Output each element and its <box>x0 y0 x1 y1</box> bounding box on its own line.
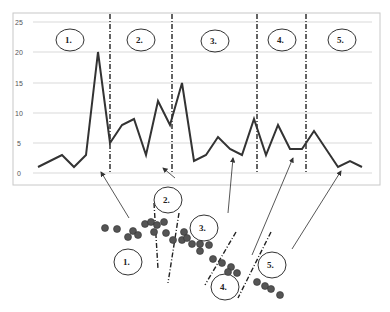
svg-text:25: 25 <box>15 19 23 26</box>
scatter-label-5: 5. <box>267 260 274 270</box>
svg-text:10: 10 <box>15 110 23 117</box>
diagram-canvas: 0 5 10 15 20 25 1. 2. 3. 4. 5. <box>0 0 390 312</box>
scatter-label-1: 1. <box>123 257 130 267</box>
svg-text:15: 15 <box>15 80 23 87</box>
y-axis-gridlines <box>33 22 372 173</box>
svg-text:20: 20 <box>15 49 23 56</box>
segment-labels <box>56 29 356 52</box>
data-line <box>38 52 362 167</box>
svg-text:5: 5 <box>17 140 21 147</box>
scatter-label-3: 3. <box>199 223 206 233</box>
scatter-label-2: 2. <box>163 195 170 205</box>
scatter-label-4: 4. <box>220 282 227 292</box>
arrows <box>101 158 341 255</box>
svg-text:0: 0 <box>17 170 21 177</box>
segment-label-2: 2. <box>136 35 143 45</box>
segment-label-1: 1. <box>65 35 72 45</box>
y-axis-ticks: 0 5 10 15 20 25 <box>15 19 23 177</box>
segment-label-5: 5. <box>337 35 344 45</box>
segment-label-4: 4. <box>277 35 284 45</box>
segment-label-3: 3. <box>210 36 217 46</box>
